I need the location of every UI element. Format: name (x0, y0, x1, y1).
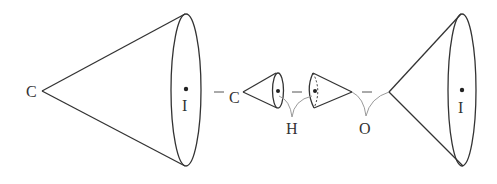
label-right-cone-center: I (458, 99, 463, 116)
oxygen-bond-curve (352, 92, 389, 116)
diagram-canvas: C I C H O (0, 0, 497, 184)
label-hydrogen: H (286, 120, 298, 137)
right-large-cone (389, 14, 476, 166)
center-dot-icon (313, 89, 317, 93)
label-small-cone-apex: C (229, 89, 240, 106)
label-left-cone-center: I (182, 97, 187, 114)
center-dot-icon (276, 89, 280, 93)
small-cone-1 (243, 73, 284, 108)
label-oxygen: O (359, 120, 371, 137)
small-cone-2 (309, 73, 352, 108)
label-left-cone-apex: C (26, 83, 37, 100)
center-dot-icon (184, 87, 188, 91)
hydrogen-bond-curve (279, 96, 312, 117)
center-dot-icon (460, 88, 464, 92)
left-large-cone (42, 14, 201, 166)
